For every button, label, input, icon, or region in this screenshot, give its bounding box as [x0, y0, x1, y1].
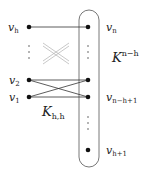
- label-vh1: vh+1: [106, 144, 127, 158]
- node-vh: [27, 25, 32, 30]
- label-v1: v1: [9, 91, 20, 105]
- node-vn: [86, 25, 91, 30]
- node-vmid: [86, 78, 91, 83]
- label-vh: vh: [8, 21, 19, 35]
- label-clique-k: Kn−h: [111, 49, 139, 65]
- label-vnh1: vn−h+1: [106, 91, 137, 105]
- node-v1: [27, 95, 32, 100]
- node-vnh1: [86, 95, 91, 100]
- node-v2: [27, 78, 32, 83]
- label-v2: v2: [9, 74, 20, 88]
- label-vn: vn: [106, 21, 117, 35]
- label-biclique-k: Kh,h: [41, 104, 65, 121]
- cross-edges-icon: [43, 43, 69, 64]
- clique-enclosure: [79, 10, 99, 167]
- graph-diagram: vh v2 v1 vn vn−h+1 vh+1 Kn−h Kh,h: [0, 0, 152, 176]
- node-vh1: [86, 148, 91, 153]
